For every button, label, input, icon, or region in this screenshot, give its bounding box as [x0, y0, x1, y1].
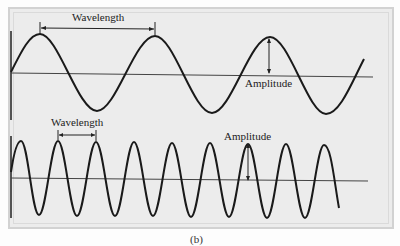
arrow-right-icon: [149, 27, 154, 31]
arrow-right-icon: [91, 133, 95, 137]
top-amplitude-label: Amplitude: [245, 77, 292, 89]
arrow-left-icon: [41, 26, 46, 30]
top-wavelength-label: Wavelength: [72, 11, 124, 23]
top-wave-axis: [11, 73, 373, 77]
bottom-amplitude-label: Amplitude: [224, 130, 271, 142]
bottom-wavelength-label: Wavelength: [51, 116, 103, 128]
arrow-up-icon: [267, 38, 271, 43]
top-wavelength-arrow: [41, 28, 154, 29]
arrow-left-icon: [59, 133, 63, 137]
arrow-down-icon: [267, 69, 271, 74]
figure-caption: (b): [190, 233, 203, 245]
